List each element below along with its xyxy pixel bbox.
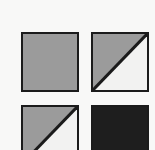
swatch-tile-bottom-left[interactable] — [21, 105, 79, 150]
swatch-tile-top-left[interactable] — [21, 32, 79, 92]
tile-pattern-swatch-sheet — [0, 0, 155, 150]
swatch-tile-top-right[interactable] — [91, 32, 149, 92]
solid-fill-shape — [23, 34, 77, 90]
diagonal-triangle-icon — [93, 34, 147, 90]
swatch-tile-bottom-right[interactable] — [91, 105, 149, 150]
swatch-grid — [21, 32, 149, 150]
solid-fill-shape — [93, 107, 147, 150]
diagonal-triangle-icon — [23, 107, 77, 150]
